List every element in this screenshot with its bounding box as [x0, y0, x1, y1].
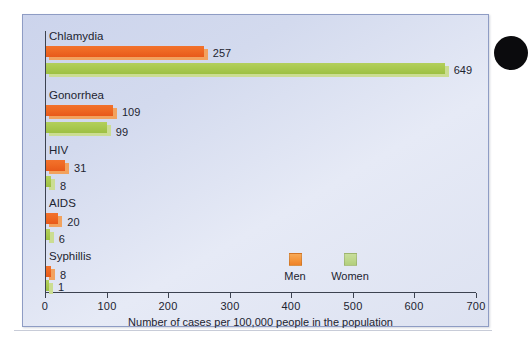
bar-men-gonorrhea	[46, 105, 113, 116]
bar-women-gonorrhea	[46, 122, 107, 133]
category-label-gonorrhea: Gonorrhea	[49, 89, 104, 101]
bar-face	[46, 46, 204, 57]
x-tick-400	[291, 293, 292, 298]
category-label-hiv: HIV	[49, 144, 68, 156]
x-tick-label-500: 500	[344, 300, 363, 312]
x-tick-label-100: 100	[98, 300, 117, 312]
page-rule	[14, 330, 492, 331]
x-tick-label-600: 600	[405, 300, 424, 312]
bar-under	[49, 240, 53, 243]
bar-women-syphillis	[46, 280, 49, 291]
bar-value-women-chlamydia: 649	[454, 64, 472, 76]
x-tick-500	[353, 293, 354, 298]
legend-item-women: Women	[326, 253, 374, 282]
x-tick-100	[107, 293, 108, 298]
bar-face	[46, 63, 445, 74]
bar-value-men-gonorrhea: 109	[122, 106, 140, 118]
bar-value-women-aids: 6	[59, 233, 65, 245]
bar-face	[46, 105, 113, 116]
bar-value-men-chlamydia: 257	[213, 47, 231, 59]
bar-men-chlamydia	[46, 46, 204, 57]
bar-under	[49, 277, 54, 280]
chart-panel: 0 100 200 300 400 500 600 700 Number of …	[22, 14, 489, 327]
bar-women-hiv	[46, 176, 51, 187]
x-tick-label-200: 200	[159, 300, 178, 312]
margin-bullet-icon	[494, 36, 528, 70]
bar-value-men-syphillis: 8	[60, 269, 66, 281]
bar-under	[49, 187, 54, 190]
bar-value-women-gonorrhea: 99	[116, 126, 128, 138]
x-tick-label-400: 400	[282, 300, 301, 312]
bar-men-syphillis	[46, 266, 51, 277]
category-label-chlamydia: Chlamydia	[49, 30, 103, 42]
bar-under	[49, 291, 52, 294]
x-axis-line	[45, 292, 476, 293]
bar-value-men-hiv: 31	[74, 162, 86, 174]
x-tick-label-700: 700	[467, 300, 486, 312]
bar-under	[49, 57, 207, 60]
x-tick-700	[476, 293, 477, 298]
bar-under	[49, 116, 116, 119]
bar-face	[46, 213, 58, 224]
bar-value-men-aids: 20	[67, 216, 79, 228]
bar-value-women-hiv: 8	[60, 180, 66, 192]
bar-men-aids	[46, 213, 58, 224]
category-label-syphillis: Syphillis	[49, 250, 91, 262]
bar-under	[49, 133, 110, 136]
plot-area: 0 100 200 300 400 500 600 700 Number of …	[23, 15, 490, 328]
x-tick-600	[414, 293, 415, 298]
x-axis-title: Number of cases per 100,000 people in th…	[45, 316, 476, 328]
bar-value-women-syphillis: 1	[58, 281, 64, 293]
legend-item-men: Men	[278, 253, 312, 282]
bar-women-aids	[46, 229, 50, 240]
legend-label-men: Men	[278, 270, 312, 282]
bar-face	[46, 160, 65, 171]
legend-swatch-women-icon	[344, 253, 357, 266]
x-tick-label-0: 0	[42, 300, 48, 312]
category-label-aids: AIDS	[49, 197, 76, 209]
x-tick-300	[230, 293, 231, 298]
x-tick-0	[45, 293, 46, 298]
bar-under	[49, 74, 448, 77]
bar-face	[46, 122, 107, 133]
bar-men-hiv	[46, 160, 65, 171]
bar-under	[49, 171, 68, 174]
bar-women-chlamydia	[46, 63, 445, 74]
legend-swatch-men-icon	[289, 253, 302, 266]
x-tick-200	[168, 293, 169, 298]
x-tick-label-300: 300	[221, 300, 240, 312]
bar-under	[49, 224, 61, 227]
legend-label-women: Women	[326, 270, 374, 282]
